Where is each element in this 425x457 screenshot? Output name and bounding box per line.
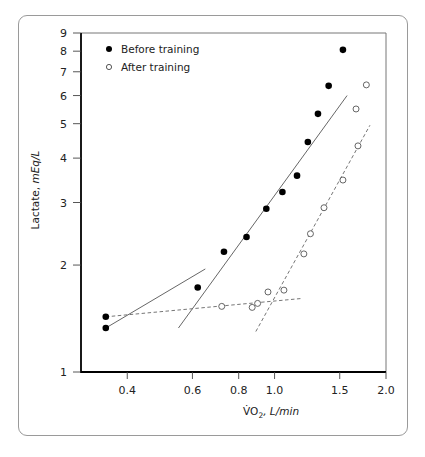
y-tick-label: 8 xyxy=(60,45,67,58)
after-training-point xyxy=(355,143,361,149)
before-training-point xyxy=(279,189,286,196)
legend-before-label: Before training xyxy=(121,43,199,55)
x-tick-label: 0.4 xyxy=(119,384,137,397)
y-tick-label: 6 xyxy=(60,90,67,103)
y-tick-label: 9 xyxy=(60,27,67,40)
x-tick-label: 1.5 xyxy=(331,384,349,397)
y-tick-label: 4 xyxy=(60,152,67,165)
before-training-point xyxy=(294,172,301,179)
after-training-point xyxy=(363,82,369,88)
after-training-point xyxy=(255,300,261,306)
chart-canvas: 123456789 0.40.60.81.01.52.0 Before trai… xyxy=(0,0,425,457)
before-training-point xyxy=(340,47,347,54)
before-training-point xyxy=(194,284,201,291)
fit-lines xyxy=(106,96,370,332)
after-training-point xyxy=(301,251,307,257)
y-tick-label: 2 xyxy=(60,259,67,272)
before-training-point xyxy=(325,83,332,90)
fit-line xyxy=(256,125,370,331)
x-tick-label: 0.6 xyxy=(184,384,202,397)
data-points xyxy=(102,47,369,332)
before-training-point xyxy=(263,205,270,212)
after-training-point xyxy=(249,304,255,310)
after-training-point xyxy=(321,205,327,211)
before-training-point xyxy=(305,139,312,146)
x-axis-title: V̇O2, L/min xyxy=(243,405,299,420)
y-tick-label: 7 xyxy=(60,66,67,79)
x-tick-label: 1.0 xyxy=(266,384,284,397)
legend-open-marker-icon xyxy=(106,64,111,69)
plot-area xyxy=(80,33,386,373)
before-training-point xyxy=(102,325,109,332)
after-training-point xyxy=(353,106,359,112)
y-tick-label: 1 xyxy=(60,366,67,379)
y-tick-label: 3 xyxy=(60,197,67,210)
before-training-point xyxy=(315,111,322,118)
after-training-point xyxy=(340,177,346,183)
x-tick-label: 2.0 xyxy=(377,384,395,397)
x-axis: 0.40.60.81.01.52.0 xyxy=(119,372,395,397)
after-training-point xyxy=(281,287,287,293)
y-axis-title: Lactate, mEq/L xyxy=(29,150,41,229)
legend: Before training After training xyxy=(106,43,199,73)
before-training-point xyxy=(102,314,109,321)
before-training-point xyxy=(243,234,250,241)
before-training-point xyxy=(221,248,228,255)
y-axis: 123456789 xyxy=(60,27,81,379)
fit-line xyxy=(178,96,347,328)
y-tick-label: 5 xyxy=(60,118,67,131)
after-training-point xyxy=(265,289,271,295)
after-training-point xyxy=(219,303,225,309)
legend-after-label: After training xyxy=(121,61,190,73)
after-training-point xyxy=(307,231,313,237)
fit-line xyxy=(106,299,301,317)
fit-line xyxy=(106,269,206,328)
x-tick-label: 0.8 xyxy=(230,384,248,397)
legend-filled-marker-icon xyxy=(106,46,112,52)
